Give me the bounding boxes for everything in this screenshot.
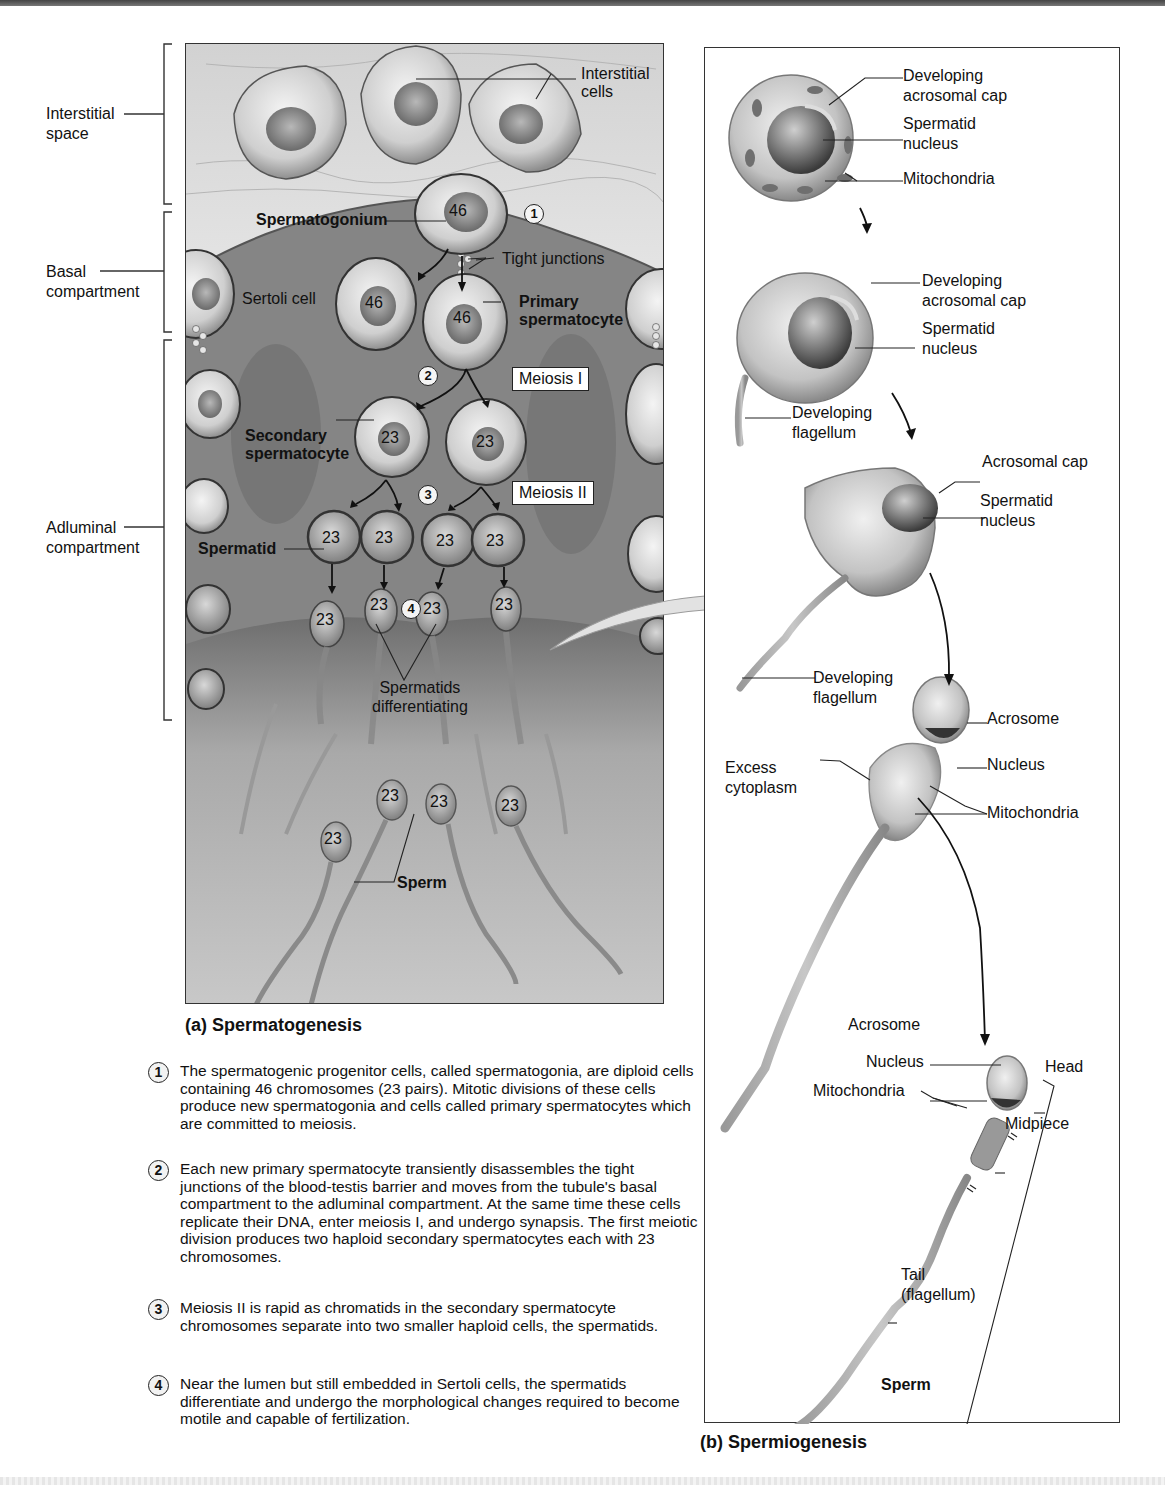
count-primary-spermatocyte: 46 (453, 308, 471, 328)
label-s3-developing-flagellum: Developingflagellum (813, 668, 893, 708)
label-s4-excess-cytoplasm: Excesscytoplasm (725, 758, 797, 798)
label-meiosis-2: Meiosis II (512, 481, 594, 505)
count-spermatogonium: 46 (449, 201, 467, 221)
label-sertoli-cell: Sertoli cell (242, 289, 316, 309)
count-differentiating-1: 23 (316, 610, 334, 630)
step-text-4: Near the lumen but still embedded in Ser… (180, 1375, 698, 1428)
step-marker-1: 1 (524, 204, 544, 224)
count-secondary-1: 23 (381, 428, 399, 448)
spermiogenesis-panel: Developingacrosomal cap Spermatidnucleus… (704, 47, 1120, 1423)
step-marker-2: 2 (418, 366, 438, 386)
label-s5-tail: Tail(flagellum) (901, 1265, 976, 1305)
step-3: 3 Meiosis II is rapid as chromatids in t… (148, 1299, 698, 1334)
step-text-2: Each new primary spermatocyte transientl… (180, 1160, 698, 1265)
step-number-3: 3 (148, 1299, 169, 1320)
label-s5-nucleus: Nucleus (866, 1052, 924, 1072)
label-s4-acrosome: Acrosome (987, 709, 1059, 729)
region-label-adluminal: Adluminalcompartment (46, 518, 139, 558)
label-tight-junctions: Tight junctions (502, 249, 605, 269)
label-meiosis-1: Meiosis I (512, 367, 589, 391)
step-4: 4 Near the lumen but still embedded in S… (148, 1375, 698, 1428)
caption-spermiogenesis: (b) Spermiogenesis (700, 1432, 867, 1453)
label-interstitial-cells: Interstitialcells (581, 65, 649, 101)
step-marker-3: 3 (418, 485, 438, 505)
count-sperm-3: 23 (430, 792, 448, 812)
label-s1-mitochondria: Mitochondria (903, 169, 995, 189)
label-s2-developing-flagellum: Developingflagellum (792, 403, 872, 443)
label-s1-acrosomal-cap: Developingacrosomal cap (903, 66, 1007, 106)
label-s2-spermatid-nucleus: Spermatidnucleus (922, 319, 995, 359)
step-number-2: 2 (148, 1160, 169, 1181)
label-primary-spermatocyte: Primaryspermatocyte (519, 293, 623, 329)
bottom-edge-bar (0, 1477, 1165, 1485)
label-secondary-spermatocyte: Secondaryspermatocyte (245, 427, 349, 463)
count-spermatid-2: 23 (375, 528, 393, 548)
count-differentiating-4: 23 (495, 595, 513, 615)
label-spermatid: Spermatid (198, 539, 276, 559)
label-s4-nucleus: Nucleus (987, 755, 1045, 775)
spermatogenesis-illustration: 46 46 46 23 23 23 23 23 23 23 23 23 23 2… (185, 43, 664, 1004)
step-number-1: 1 (148, 1062, 169, 1083)
count-spermatogonium-daughter: 46 (365, 293, 383, 313)
label-s2-acrosomal-cap: Developingacrosomal cap (922, 271, 1026, 311)
count-sperm-2: 23 (381, 786, 399, 806)
caption-spermatogenesis: (a) Spermatogenesis (185, 1015, 362, 1036)
label-s3-acrosomal-cap: Acrosomal cap (982, 452, 1088, 472)
label-s5-mitochondria: Mitochondria (813, 1081, 905, 1101)
count-spermatid-4: 23 (486, 531, 504, 551)
step-marker-4: 4 (401, 599, 421, 619)
label-s5-sperm-title: Sperm (881, 1375, 931, 1395)
step-number-4: 4 (148, 1375, 169, 1396)
count-differentiating-2: 23 (370, 595, 388, 615)
count-sperm-4: 23 (501, 796, 519, 816)
step-text-3: Meiosis II is rapid as chromatids in the… (180, 1299, 698, 1334)
region-label-interstitial: Interstitialspace (46, 104, 114, 144)
label-spermatogonium: Spermatogonium (256, 210, 388, 230)
count-differentiating-3: 23 (423, 599, 441, 619)
count-spermatid-1: 23 (322, 528, 340, 548)
step-text-1: The spermatogenic progenitor cells, call… (180, 1062, 698, 1132)
count-secondary-2: 23 (476, 432, 494, 452)
region-label-basal: Basalcompartment (46, 262, 139, 302)
label-s5-head: Head (1045, 1057, 1083, 1077)
label-s5-acrosome: Acrosome (848, 1015, 920, 1035)
count-sperm-1: 23 (324, 829, 342, 849)
label-s3-spermatid-nucleus: Spermatidnucleus (980, 491, 1053, 531)
label-s4-mitochondria: Mitochondria (987, 803, 1079, 823)
step-2: 2 Each new primary spermatocyte transien… (148, 1160, 698, 1265)
label-spermatids-differentiating: Spermatidsdifferentiating (372, 678, 468, 716)
label-s5-midpiece: Midpiece (1005, 1114, 1069, 1134)
label-sperm: Sperm (397, 873, 447, 893)
count-spermatid-3: 23 (436, 531, 454, 551)
label-s1-spermatid-nucleus: Spermatidnucleus (903, 114, 976, 154)
step-1: 1 The spermatogenic progenitor cells, ca… (148, 1062, 698, 1132)
